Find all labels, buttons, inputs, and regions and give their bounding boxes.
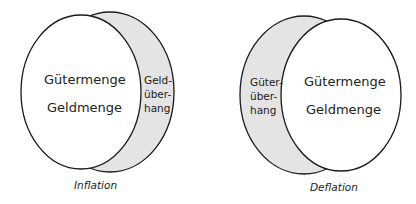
inflation-label-geldmenge: Geldmenge	[47, 100, 122, 115]
crescent-label-line: über-	[144, 87, 172, 101]
inflation-caption: Inflation	[74, 179, 117, 191]
crescent-label-line: über-	[250, 89, 283, 103]
crescent-label-line: hang	[144, 101, 172, 115]
crescent-label-line: Geld-	[144, 73, 172, 87]
deflation-caption: Deflation	[310, 181, 358, 193]
inflation-inner-ellipse	[21, 15, 141, 169]
inflation-label-guetermenge: Gütermenge	[44, 72, 126, 87]
inflation-crescent-label: Geld- über- hang	[144, 73, 172, 115]
deflation-label-guetermenge: Gütermenge	[304, 74, 386, 89]
deflation-label-geldmenge: Geldmenge	[306, 102, 381, 117]
deflation-inner-ellipse	[281, 19, 401, 171]
crescent-label-line: Güter-	[250, 75, 283, 89]
crescent-label-line: hang	[250, 103, 283, 117]
deflation-crescent-label: Güter- über- hang	[250, 75, 283, 117]
